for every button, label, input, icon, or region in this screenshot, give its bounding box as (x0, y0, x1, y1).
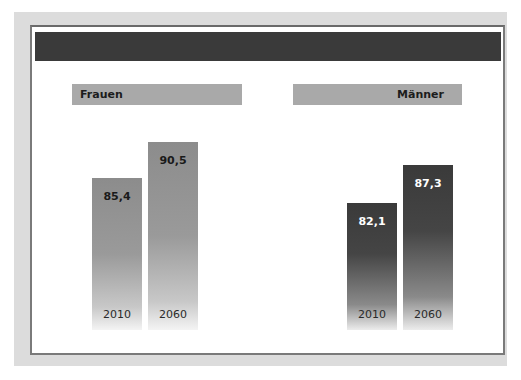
group-label-frauen: Frauen (72, 84, 242, 105)
bar-maenner-2060: 87,3 2060 (403, 165, 453, 330)
bar-frauen-2010: 85,4 2010 (92, 178, 142, 330)
bar-value: 85,4 (92, 190, 142, 203)
bar-value: 90,5 (148, 154, 198, 167)
bar-maenner-2010: 82,1 2010 (347, 203, 397, 330)
bar-value: 82,1 (347, 215, 397, 228)
bar-frauen-2060: 90,5 2060 (148, 142, 198, 330)
bar-year: 2010 (92, 308, 142, 321)
group-label-maenner: Männer (293, 84, 462, 105)
bar-year: 2060 (403, 308, 453, 321)
header-bar (35, 32, 501, 61)
bar-year: 2010 (347, 308, 397, 321)
bar-year: 2060 (148, 308, 198, 321)
bar-value: 87,3 (403, 177, 453, 190)
